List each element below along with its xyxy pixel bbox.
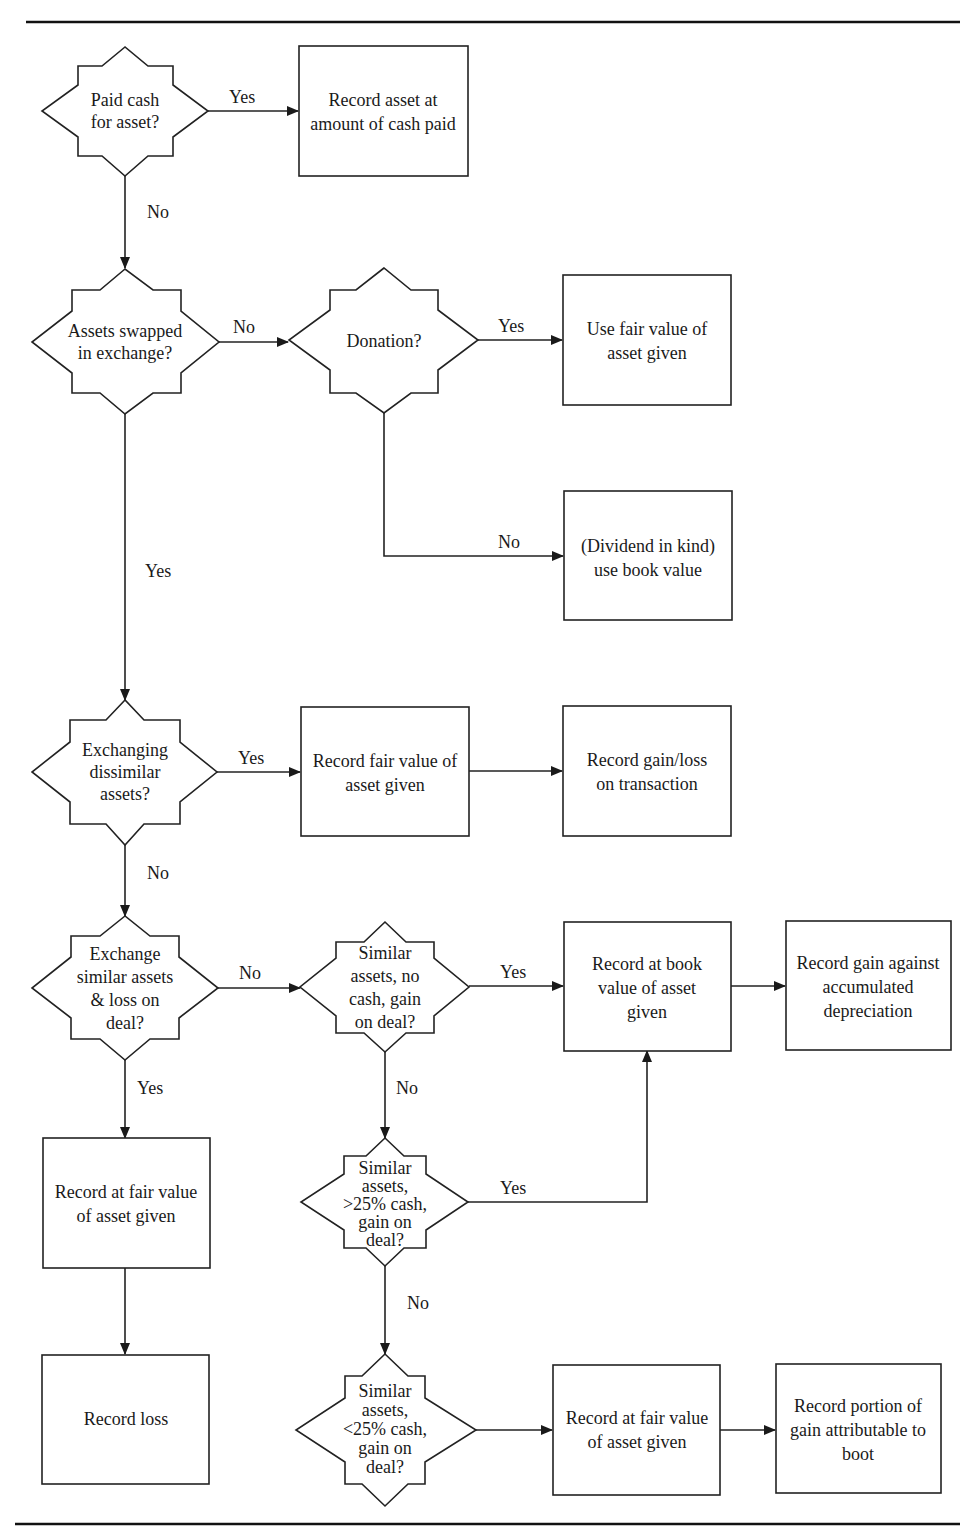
- decision-exchange-similar-loss: Exchangesimilar assets& loss ondeal?: [32, 916, 218, 1060]
- process-record-loss: Record loss: [42, 1355, 209, 1484]
- process-use-fair-value: Use fair value ofasset given: [563, 275, 731, 405]
- process-record-fair-value-boot: Record at fair valueof asset given: [553, 1365, 720, 1495]
- label-dissimilar-no: No: [147, 863, 169, 883]
- label-paid-cash-yes: Yes: [229, 87, 255, 107]
- decision-paid-cash: Paid cashfor asset?: [42, 47, 208, 176]
- label-gt25-no: No: [407, 1293, 429, 1313]
- flowchart-canvas: Yes No No Yes Yes No Yes No No Yes Yes N…: [0, 0, 978, 1534]
- label-swapped-yes: Yes: [145, 561, 171, 581]
- label-swapped-no: No: [233, 317, 255, 337]
- label-dissimilar-yes: Yes: [238, 748, 264, 768]
- label-paid-cash-no: No: [147, 202, 169, 222]
- decision-similar-gt25: Similarassets,>25% cash,gain ondeal?: [301, 1138, 468, 1266]
- process-record-boot-gain: Record portion ofgain attributable toboo…: [776, 1364, 941, 1493]
- label-donation-no: No: [498, 532, 520, 552]
- process-record-fair-value-loss: Record at fair valueof asset given: [43, 1138, 210, 1268]
- decision-donation: Donation?: [289, 268, 478, 413]
- edge-labels: Yes No No Yes Yes No Yes No No Yes Yes N…: [137, 87, 526, 1313]
- process-record-gain-loss: Record gain/losson transaction: [563, 706, 731, 836]
- process-record-gain-accum-dep: Record gain againstaccumulateddepreciati…: [786, 921, 951, 1050]
- label-no-cash-no: No: [396, 1078, 418, 1098]
- decision-assets-swapped: Assets swappedin exchange?: [32, 269, 219, 414]
- decision-exchanging-dissimilar: Exchangingdissimilarassets?: [32, 700, 217, 845]
- decision-similar-no-cash: Similarassets, nocash, gainon deal?: [300, 922, 469, 1052]
- process-record-cash-paid: Record asset atamount of cash paid: [299, 46, 468, 176]
- edge-gt25-yes: [468, 1051, 647, 1202]
- label-donation-yes: Yes: [498, 316, 524, 336]
- svg-text:Donation?: Donation?: [347, 331, 422, 351]
- process-record-book-value: Record at bookvalue of assetgiven: [564, 922, 731, 1051]
- svg-text:Record loss: Record loss: [84, 1409, 169, 1429]
- edge-donation-no: [384, 413, 563, 556]
- process-dividend-in-kind: (Dividend in kind)use book value: [564, 491, 732, 620]
- label-similar-loss-no: No: [239, 963, 261, 983]
- decision-similar-lt25: Similarassets,<25% cash,gain ondeal?: [296, 1354, 476, 1506]
- label-no-cash-yes: Yes: [500, 962, 526, 982]
- process-record-fair-value-dissimilar: Record fair value ofasset given: [301, 707, 469, 836]
- label-gt25-yes: Yes: [500, 1178, 526, 1198]
- label-similar-loss-yes: Yes: [137, 1078, 163, 1098]
